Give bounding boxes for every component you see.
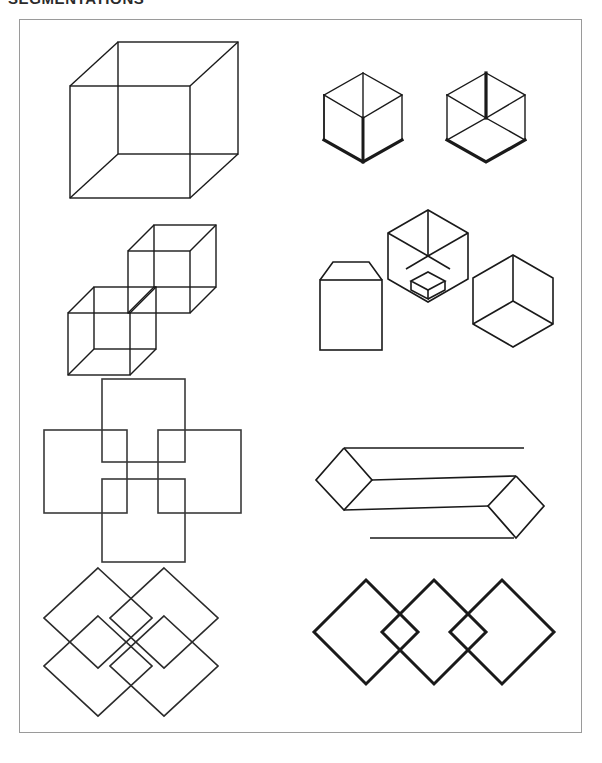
- row-diamond-right: [450, 580, 554, 684]
- figure-two-linked-wireframe-cubes: [40, 205, 290, 360]
- center-hexagon-with-nested-box: [388, 210, 468, 302]
- figure-necker-cube-wireframe: [40, 28, 290, 198]
- page-title: SEGMENTATIONS: [8, 0, 144, 5]
- figure-grid: [20, 20, 583, 734]
- figure-three-diamonds-in-a-row: [308, 570, 563, 710]
- right-hex-lower-bold: [447, 140, 525, 162]
- row-diamond-center: [382, 580, 486, 684]
- nested-small-box-top: [411, 272, 445, 290]
- linked-cubes-svg: [40, 205, 290, 365]
- center-hex-lower-left-inner: [406, 256, 428, 269]
- pinwheel-diamond-bottom-left: [44, 616, 152, 716]
- cube2-conn-bl: [128, 287, 154, 313]
- figure-four-overlapping-squares-cross: [40, 375, 290, 540]
- cube1-conn-br: [130, 349, 156, 375]
- right-hexagon-cube-corner: [473, 255, 553, 347]
- center-hex-lower-right-inner: [428, 256, 450, 269]
- figure-plate-page: SEGMENTATIONS: [0, 0, 602, 763]
- figure-hexagon-cube-corner-pair: [308, 60, 563, 180]
- left-hex-spoke-upper-right: [363, 95, 402, 118]
- figure-cube-corner-decomposition-triplet: [308, 198, 563, 360]
- figure-elongated-prism-with-detached-edges: [308, 432, 563, 542]
- right-hex-spoke-mid-left: [447, 95, 486, 118]
- right-hex-spoke-mid-right: [486, 95, 525, 118]
- necker-connector-bottom-right: [190, 154, 238, 198]
- necker-connector-bottom-left: [70, 154, 118, 198]
- cross-square-left: [44, 430, 127, 513]
- right-hex-spoke-lower-right: [486, 118, 525, 140]
- center-hex-spoke-right: [428, 233, 468, 256]
- cube1-conn-tr: [130, 287, 156, 313]
- elongated-prism-svg: [308, 432, 563, 552]
- left-hex-spoke-upper-left: [324, 95, 363, 118]
- left-hexagon-group: [324, 73, 402, 162]
- center-hex-spoke-left: [388, 233, 428, 256]
- right-hex-spoke-lower-left: [447, 118, 486, 140]
- prism-lower-edge: [344, 506, 488, 510]
- prism-left-cap: [316, 448, 372, 510]
- row-diamond-left: [314, 580, 418, 684]
- cube1-conn-bl: [68, 349, 94, 375]
- prism-right-cap: [488, 476, 544, 538]
- cross-square-top: [102, 379, 185, 462]
- decomposition-triplet-svg: [308, 198, 563, 363]
- figure-four-overlapping-diamonds-pinwheel: [40, 560, 290, 715]
- hexagon-pair-svg: [308, 60, 563, 182]
- lidbox-trapezoid-lid: [320, 262, 382, 280]
- necker-cube-svg: [40, 28, 290, 213]
- right-hexagon-group: [447, 73, 525, 162]
- pinwheel-diamond-bottom-right: [110, 616, 218, 716]
- cross-square-bottom: [102, 479, 185, 562]
- necker-connector-top-right: [190, 42, 238, 86]
- right-hex-spoke-dr2: [513, 301, 553, 324]
- cube1-conn-tl: [68, 287, 94, 313]
- overlapping-squares-svg: [40, 375, 290, 545]
- pinwheel-diamond-top-right: [110, 568, 218, 668]
- cube-upper-right: [128, 225, 216, 313]
- left-box-with-lid: [320, 262, 382, 350]
- prism-mid-edge: [372, 476, 516, 480]
- cube2-conn-br: [190, 287, 216, 313]
- lidbox-square: [320, 280, 382, 350]
- overlapping-diamonds-svg: [40, 560, 290, 720]
- cross-square-right: [158, 430, 241, 513]
- necker-connector-top-left: [70, 42, 118, 86]
- cube-lower-left: [68, 287, 156, 375]
- cube2-conn-tr: [190, 225, 216, 251]
- pinwheel-diamond-top-left: [44, 568, 152, 668]
- right-hex-spoke-dl2: [473, 301, 513, 324]
- three-diamonds-svg: [308, 570, 563, 710]
- figure-panel: [19, 19, 582, 733]
- cube2-conn-tl: [128, 225, 154, 251]
